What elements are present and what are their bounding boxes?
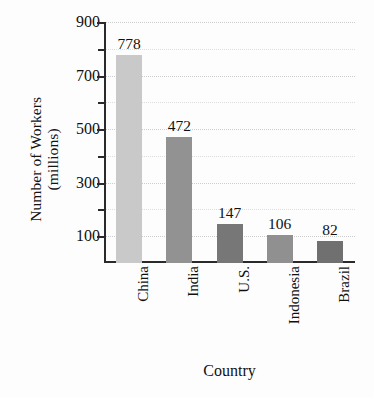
y-axis-tick-labels: 900700500300100 bbox=[48, 0, 100, 398]
plot-area: 77847214710682 bbox=[104, 22, 355, 262]
x-tick-label: Brazil bbox=[337, 266, 352, 303]
y-tick-label: 500 bbox=[54, 121, 100, 137]
x-axis-tick-labels: ChinaIndiaU.S.IndonesiaBrazil bbox=[104, 262, 355, 362]
x-axis-title: Country bbox=[104, 362, 355, 380]
x-tick-label: India bbox=[186, 266, 201, 297]
x-tick-label: Indonesia bbox=[287, 266, 302, 324]
bar-value-label: 778 bbox=[99, 36, 159, 52]
y-tick-label: 100 bbox=[54, 228, 100, 244]
bar bbox=[217, 224, 243, 263]
y-tick-label: 300 bbox=[54, 175, 100, 191]
y-tick-label: 700 bbox=[54, 68, 100, 84]
y-axis-title-line-1: Number of Workers bbox=[27, 44, 44, 274]
bar-value-label: 82 bbox=[300, 222, 360, 238]
bar bbox=[267, 235, 293, 263]
bar bbox=[116, 55, 142, 263]
bar bbox=[317, 241, 343, 263]
y-tick-label: 900 bbox=[54, 14, 100, 30]
bar bbox=[166, 137, 192, 263]
x-tick-label: U.S. bbox=[237, 266, 252, 293]
bar-series: 77847214710682 bbox=[104, 22, 355, 263]
x-tick-label: China bbox=[136, 266, 151, 302]
bar-value-label: 472 bbox=[149, 118, 209, 134]
bar-chart-figure: Number of Workers (millions) 90070050030… bbox=[0, 0, 374, 398]
